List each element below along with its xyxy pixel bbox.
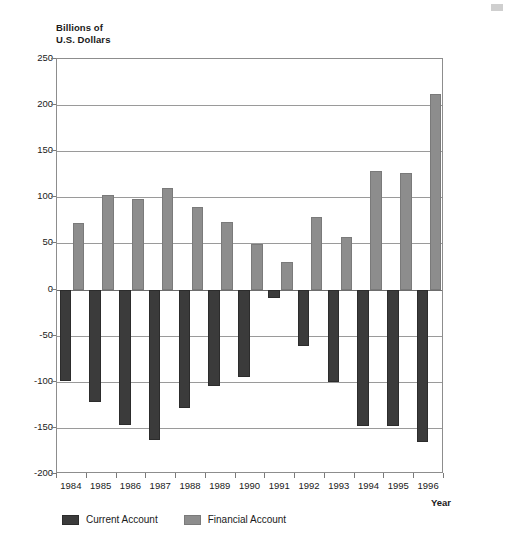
- bar-current-account-1985: [89, 290, 101, 403]
- y-axis-tick-label: 0: [9, 284, 53, 294]
- bar-financial-account-1991: [281, 262, 293, 290]
- y-axis-tick-label: -50: [9, 330, 53, 340]
- gridline--150: [57, 428, 442, 429]
- y-axis-tick-label: -150: [9, 422, 53, 432]
- legend-label-current-account: Current Account: [86, 515, 158, 525]
- x-axis-tick-mark: [116, 473, 117, 478]
- y-axis-tick-label: -200: [9, 468, 53, 478]
- y-axis-title: Billions of U.S. Dollars: [56, 22, 111, 46]
- chart-legend: Current Account Financial Account: [62, 515, 286, 525]
- x-axis-tick-mark: [175, 473, 176, 478]
- x-axis-tick-mark: [235, 473, 236, 478]
- y-axis-tick-label: -100: [9, 376, 53, 386]
- x-axis-tick-mark: [145, 473, 146, 478]
- x-axis-tick-mark: [383, 473, 384, 478]
- legend-label-financial-account: Financial Account: [208, 515, 286, 525]
- y-axis-tick-label: 150: [9, 145, 53, 155]
- bar-financial-account-1984: [73, 223, 85, 289]
- legend-swatch-financial-account: [184, 515, 201, 525]
- x-axis-title: Year: [431, 497, 451, 508]
- bar-current-account-1994: [357, 290, 369, 426]
- x-axis-tick-mark: [264, 473, 265, 478]
- bar-financial-account-1989: [221, 222, 233, 289]
- scan-artifact-mark: [491, 4, 503, 11]
- bar-current-account-1991: [268, 290, 280, 298]
- bar-financial-account-1988: [192, 207, 204, 290]
- gridline-100: [57, 197, 442, 198]
- bar-current-account-1987: [149, 290, 161, 440]
- bar-financial-account-1995: [400, 173, 412, 289]
- legend-swatch-current-account: [62, 515, 79, 525]
- bar-financial-account-1993: [341, 237, 353, 290]
- x-axis-tick-mark: [205, 473, 206, 478]
- y-axis-tick-label: 250: [9, 53, 53, 63]
- plot-inner: [57, 59, 442, 472]
- legend-item-financial-account: Financial Account: [184, 515, 286, 525]
- bar-current-account-1989: [208, 290, 220, 387]
- x-axis-tick-label: 1996: [408, 481, 448, 491]
- bar-financial-account-1985: [102, 195, 114, 289]
- bar-financial-account-1987: [162, 188, 174, 289]
- bar-current-account-1990: [238, 290, 250, 378]
- y-axis-tick-label: 100: [9, 192, 53, 202]
- bar-financial-account-1996: [430, 94, 442, 290]
- bar-current-account-1995: [387, 290, 399, 426]
- bar-financial-account-1986: [132, 199, 144, 289]
- y-axis-tick-label: 50: [9, 238, 53, 248]
- bar-current-account-1984: [60, 290, 72, 381]
- x-axis-tick-mark: [413, 473, 414, 478]
- bar-current-account-1986: [119, 290, 131, 426]
- gridline-200: [57, 105, 442, 106]
- x-axis-tick-mark: [86, 473, 87, 478]
- bar-current-account-1996: [417, 290, 429, 442]
- plot-area: [56, 58, 443, 473]
- bar-financial-account-1990: [251, 244, 263, 289]
- x-axis-tick-mark: [443, 473, 444, 478]
- x-axis-tick-mark: [294, 473, 295, 478]
- x-axis-tick-mark: [324, 473, 325, 478]
- bar-financial-account-1994: [370, 171, 382, 290]
- gridline-50: [57, 243, 442, 244]
- y-axis-tick-label: 200: [9, 99, 53, 109]
- bar-current-account-1988: [179, 290, 191, 408]
- gridline-150: [57, 151, 442, 152]
- bar-financial-account-1992: [311, 217, 323, 290]
- legend-item-current-account: Current Account: [62, 515, 158, 525]
- x-axis-tick-mark: [354, 473, 355, 478]
- gridline--100: [57, 382, 442, 383]
- bar-current-account-1992: [298, 290, 310, 346]
- x-axis-tick-mark: [56, 473, 57, 478]
- bar-current-account-1993: [328, 290, 340, 382]
